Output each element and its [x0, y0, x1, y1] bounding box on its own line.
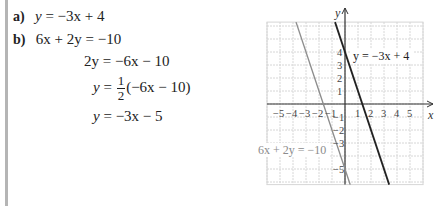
x-tick-label: 2 — [368, 108, 373, 119]
x-tick-label: 4 — [394, 108, 400, 119]
x-tick-label: −5 — [273, 108, 284, 119]
y-axis-label: y — [334, 6, 341, 20]
y-tick-label: −5 — [333, 164, 344, 175]
x-tick-label: −2 — [312, 108, 323, 119]
axes: xy — [267, 6, 434, 185]
x-tick-label: 1 — [355, 108, 360, 119]
annotation-line-1: y = −3x + 4 — [353, 49, 409, 63]
line-graph: xy −5−4−3−2−1123454321−1−2−3−5 y = −3x +… — [0, 0, 438, 206]
x-tick-label: 5 — [407, 108, 412, 119]
x-tick-label: −4 — [286, 108, 298, 119]
y-tick-label: 4 — [337, 47, 343, 58]
y-tick-label: 1 — [337, 86, 342, 97]
x-axis-label: x — [427, 108, 434, 122]
series-lines — [296, 22, 389, 185]
x-tick-label: −3 — [299, 108, 310, 119]
y-tick-label: 3 — [337, 60, 342, 71]
y-tick-label: −1 — [333, 112, 344, 123]
y-tick-label: 2 — [337, 73, 342, 84]
y-tick-label: −3 — [333, 138, 344, 149]
x-tick-label: 3 — [381, 108, 386, 119]
annotation-line-2: 6x + 2y = −10 — [258, 143, 326, 157]
series-line-1 — [335, 22, 389, 185]
y-tick-label: −2 — [333, 125, 344, 136]
